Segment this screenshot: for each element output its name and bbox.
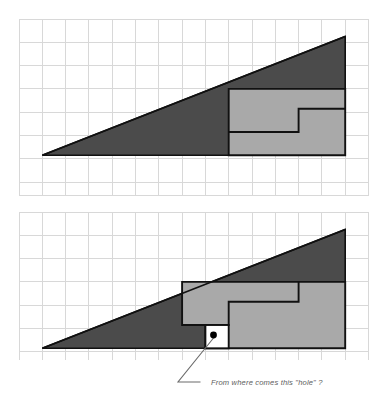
figure-top xyxy=(0,0,391,200)
figure-bottom: From where comes this "hole" ? xyxy=(0,200,391,402)
light-stepped-region-top xyxy=(229,89,346,155)
missing-square-hole xyxy=(205,325,228,348)
hole-marker-dot xyxy=(210,332,217,339)
hole-caption: From where comes this "hole" ? xyxy=(211,378,323,387)
figure-stage: From where comes this "hole" ? xyxy=(0,0,391,402)
